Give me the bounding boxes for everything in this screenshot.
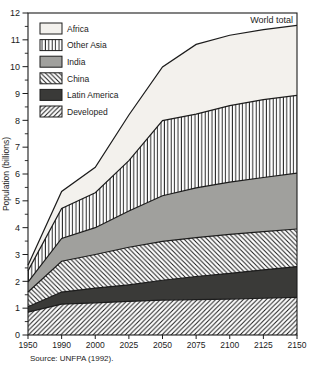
- x-tick-label: 2150: [288, 340, 307, 350]
- legend-swatch-latin-america: [40, 89, 62, 100]
- y-tick-label: 9: [15, 89, 20, 99]
- x-tick-label: 1990: [52, 340, 71, 350]
- y-tick-label: 4: [15, 223, 20, 233]
- source-note: Source: UNFPA (1992).: [30, 354, 113, 363]
- y-tick-label: 1: [15, 303, 20, 313]
- chart-legend: AfricaOther AsiaIndiaChinaLatin AmericaD…: [40, 23, 119, 117]
- legend-swatch-china: [40, 73, 62, 84]
- x-tick-label: 2100: [220, 340, 239, 350]
- x-tick-label: 2125: [254, 340, 273, 350]
- x-tick-label: 2025: [119, 340, 138, 350]
- y-tick-label: 7: [15, 142, 20, 152]
- legend-label-china: China: [67, 74, 89, 84]
- x-tick-label: 2075: [187, 340, 206, 350]
- world-total-label: World total: [250, 15, 293, 25]
- y-tick-label: 6: [15, 169, 20, 179]
- legend-label-india: India: [67, 57, 86, 67]
- legend-swatch-other-asia: [40, 40, 62, 51]
- y-tick-label: 12: [10, 8, 20, 18]
- population-projection-figure: 0123456789101112 19501990200020252050207…: [0, 0, 315, 371]
- legend-swatch-africa: [40, 23, 62, 34]
- legend-swatch-india: [40, 56, 62, 67]
- population-stacked-area-chart: 0123456789101112 19501990200020252050207…: [0, 0, 315, 371]
- x-axis: 195019902000202520502075210021252150: [19, 335, 307, 350]
- y-tick-label: 10: [10, 62, 20, 72]
- y-tick-label: 8: [15, 116, 20, 126]
- x-tick-label: 2000: [86, 340, 105, 350]
- y-tick-label: 2: [15, 277, 20, 287]
- x-tick-label: 1950: [19, 340, 38, 350]
- y-axis-title: Population (billions): [1, 137, 11, 211]
- y-tick-label: 11: [11, 35, 20, 45]
- y-axis: 0123456789101112: [10, 8, 28, 340]
- legend-label-africa: Africa: [67, 24, 89, 34]
- y-tick-label: 5: [15, 196, 20, 206]
- y-tick-label: 3: [15, 250, 20, 260]
- y-tick-label: 0: [15, 330, 20, 340]
- legend-label-other-asia: Other Asia: [67, 40, 107, 50]
- chart-area-bands: [28, 25, 297, 335]
- legend-label-latin-america: Latin America: [67, 90, 119, 100]
- legend-label-developed: Developed: [67, 107, 108, 117]
- x-tick-label: 2050: [153, 340, 172, 350]
- legend-swatch-developed: [40, 106, 62, 117]
